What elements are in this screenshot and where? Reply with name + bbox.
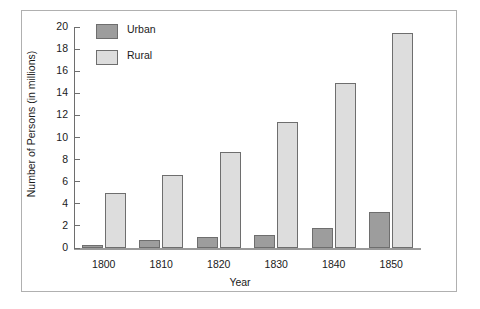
x-axis-tick-label: 1840 [304,258,364,270]
y-axis-tick-label: 6 [36,175,68,187]
bar-rural-1830 [277,122,298,248]
bar-rural-1850 [392,33,413,248]
x-axis-title: Year [0,276,480,288]
y-axis-tick-label: 8 [36,153,68,165]
y-axis-tick-label: 18 [36,42,68,54]
x-axis-tick-label: 1820 [189,258,249,270]
y-axis-tick-label: 4 [36,197,68,209]
legend-swatch-urban [96,24,118,39]
y-axis-tick-label: 20 [36,20,68,32]
y-axis-tick-label: 0 [36,241,68,253]
y-axis-tick-label: 10 [36,131,68,143]
y-axis-tick-label: 16 [36,64,68,76]
bar-urban-1800 [82,245,103,248]
y-axis-tick-label: 2 [36,219,68,231]
bar-urban-1850 [369,212,390,248]
legend-swatch-rural [96,50,118,65]
bar-urban-1820 [197,237,218,248]
y-axis-tick-label: 14 [36,86,68,98]
x-axis-tick-label: 1830 [246,258,306,270]
bar-rural-1820 [220,152,241,248]
y-axis-tick-label: 12 [36,108,68,120]
x-axis-tick-label: 1810 [131,258,191,270]
bar-rural-1810 [162,175,183,248]
bar-rural-1800 [105,193,126,248]
bar-rural-1840 [335,83,356,248]
y-axis-title: Number of Persons (in millions) [25,34,37,214]
chart-figure: Number of Persons (in millions) 02468101… [0,0,480,309]
bar-urban-1840 [312,228,333,248]
x-axis-tick-label: 1850 [361,258,421,270]
legend-label: Urban [127,23,156,35]
legend-label: Rural [127,49,152,61]
x-axis-tick-label: 1800 [74,258,134,270]
bar-urban-1830 [254,235,275,248]
bar-urban-1810 [139,240,160,248]
